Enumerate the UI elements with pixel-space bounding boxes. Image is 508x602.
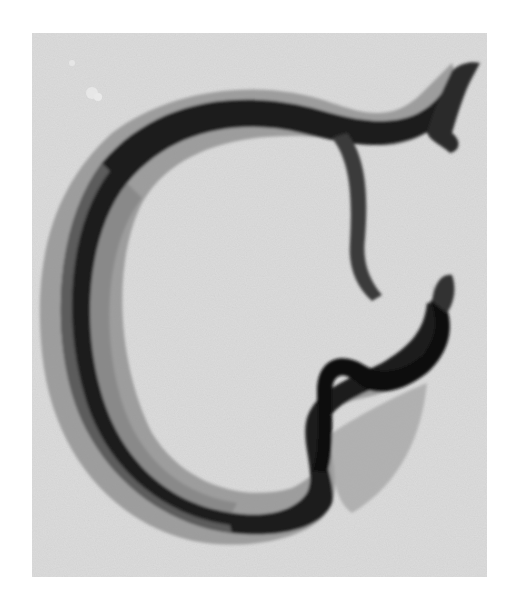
worm-specimen-image (32, 33, 487, 577)
page (0, 0, 508, 602)
micrograph-plate (32, 33, 487, 577)
